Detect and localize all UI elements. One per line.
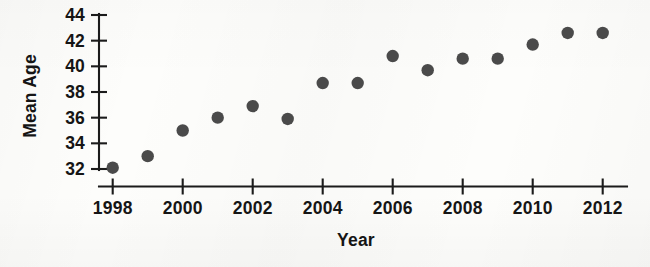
scatter-chart-figure: 32343638404244 1998200020022004200620082… [0,0,650,267]
y-tick-label: 38 [65,82,85,102]
data-point [282,113,294,125]
data-point [142,150,154,162]
data-point [212,111,224,123]
data-point [422,64,434,76]
y-tick-label: 42 [65,31,85,51]
data-point [177,124,189,136]
data-point [387,50,399,62]
data-point [492,52,504,64]
x-axis-title: Year [337,230,375,250]
x-axis-tick-labels: 19982000200220042006200820102012 [93,198,623,218]
data-point [457,52,469,64]
data-point [107,162,119,174]
y-tick-label: 32 [65,159,85,179]
y-axis-title: Mean Age [20,54,40,138]
x-tick-label: 1998 [93,198,133,218]
y-axis-tick-labels: 32343638404244 [65,5,85,179]
x-tick-label: 2004 [303,198,343,218]
data-point [562,27,574,39]
x-tick-label: 2012 [583,198,623,218]
data-point [352,77,364,89]
data-point [247,100,259,112]
x-tick-label: 2006 [373,198,413,218]
x-tick-label: 2002 [233,198,273,218]
data-point-group [107,27,609,174]
data-point [597,27,609,39]
data-point [527,38,539,50]
x-tick-label: 2010 [513,198,553,218]
x-tick-label: 2008 [443,198,483,218]
y-tick-label: 34 [65,133,85,153]
y-tick-label: 44 [65,5,85,25]
plot-area: 32343638404244 1998200020022004200620082… [0,0,650,267]
y-tick-label: 36 [65,108,85,128]
y-tick-label: 40 [65,56,85,76]
data-point [317,77,329,89]
x-tick-label: 2000 [163,198,203,218]
